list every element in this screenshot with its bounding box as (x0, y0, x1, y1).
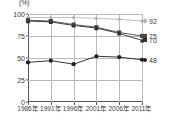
y-tick-label: 75 (17, 33, 25, 40)
y-tick-label: 100 (13, 11, 25, 18)
y-tick-label: 25 (17, 77, 25, 84)
x-tick-label: 1991年 (40, 106, 61, 113)
data-point-marker (72, 62, 76, 66)
data-point-marker (117, 55, 121, 59)
end-marker-series-75 (143, 34, 147, 38)
x-tick-label: 1996年 (63, 106, 84, 113)
end-marker-series-48 (143, 58, 147, 62)
series-line-series-70 (28, 21, 142, 40)
data-point-marker (72, 15, 76, 19)
series-line-series-48 (28, 56, 142, 64)
data-point-marker (117, 17, 121, 21)
x-tick-label: 1986年 (17, 106, 38, 113)
data-point-marker (94, 54, 98, 58)
x-tick-label: 2006年 (108, 106, 129, 113)
x-tick-label: 2001年 (86, 106, 107, 113)
end-value-label-series-92: 92 (149, 18, 157, 25)
data-point-marker (26, 60, 30, 64)
x-tick-label: 2011年 (132, 106, 153, 113)
end-marker-series-92 (142, 18, 148, 24)
y-tick-label: 50 (17, 55, 25, 62)
data-point-marker (49, 59, 53, 63)
end-value-label-series-70: 70 (149, 37, 157, 44)
end-value-label-series-48: 48 (149, 56, 157, 63)
data-point-marker (94, 16, 98, 20)
line-chart: (%) 0255075100 1986年1991年1996年2001年2006年… (0, 0, 170, 122)
y-axis-unit-label: (%) (19, 0, 29, 6)
series-line-series-75 (28, 20, 142, 36)
plot-area: 0255075100 1986年1991年1996年2001年2006年2011… (28, 14, 142, 102)
series-layer (28, 14, 142, 102)
end-marker-series-70 (143, 38, 147, 42)
